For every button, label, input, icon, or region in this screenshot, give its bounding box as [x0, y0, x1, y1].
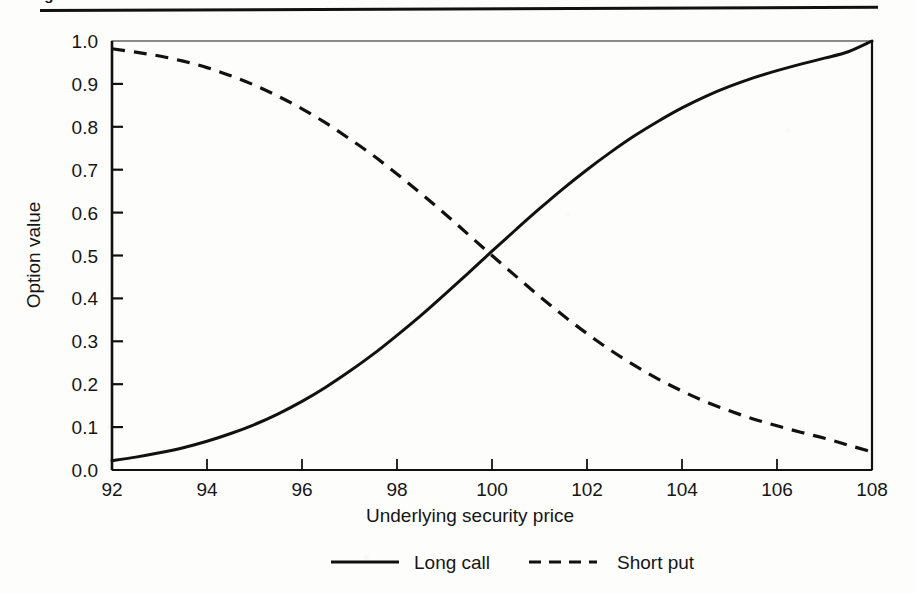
x-tick-label-92: 92 [101, 479, 122, 500]
y-tick-label-0.6: 0.6 [72, 203, 98, 224]
x-tick-label-102: 102 [571, 479, 603, 500]
figure-panel: igure 0.00.10.20.30.40.50.60.70.80.91.0 … [0, 0, 916, 593]
legend-label-long-call: Long call [414, 552, 490, 573]
y-tick-label-0.2: 0.2 [72, 374, 98, 395]
chart-legend: Long call Short put [331, 552, 695, 573]
y-tick-label-0.3: 0.3 [72, 331, 98, 352]
x-axis-title: Underlying security price [366, 505, 574, 526]
series-group [112, 41, 872, 461]
y-axis-tick-labels: 0.00.10.20.30.40.50.60.70.80.91.0 [72, 31, 99, 481]
y-tick-label-0.5: 0.5 [72, 246, 98, 267]
y-tick-label-0.4: 0.4 [72, 288, 99, 309]
x-axis-ticks [207, 459, 777, 470]
x-axis-tick-labels: 92949698100102104106108 [101, 479, 887, 500]
x-tick-label-94: 94 [196, 479, 218, 500]
y-tick-label-1.0: 1.0 [72, 31, 98, 52]
y-tick-label-0.7: 0.7 [72, 160, 98, 181]
y-axis-title: Option value [23, 202, 44, 309]
x-tick-label-104: 104 [666, 479, 698, 500]
x-tick-label-98: 98 [386, 479, 407, 500]
x-tick-label-106: 106 [761, 479, 793, 500]
y-tick-label-0.1: 0.1 [72, 417, 98, 438]
chart-svg: 0.00.10.20.30.40.50.60.70.80.91.0 929496… [0, 0, 916, 593]
y-axis-ticks [112, 84, 123, 427]
x-tick-label-96: 96 [291, 479, 312, 500]
legend-label-short-put: Short put [617, 552, 695, 573]
y-tick-label-0.0: 0.0 [72, 460, 98, 481]
x-tick-label-108: 108 [856, 479, 888, 500]
plot-area: 0.00.10.20.30.40.50.60.70.80.91.0 929496… [0, 0, 916, 593]
series-line-long-call [112, 41, 872, 461]
y-tick-label-0.9: 0.9 [72, 74, 98, 95]
y-tick-label-0.8: 0.8 [72, 117, 98, 138]
x-tick-label-100: 100 [476, 479, 508, 500]
